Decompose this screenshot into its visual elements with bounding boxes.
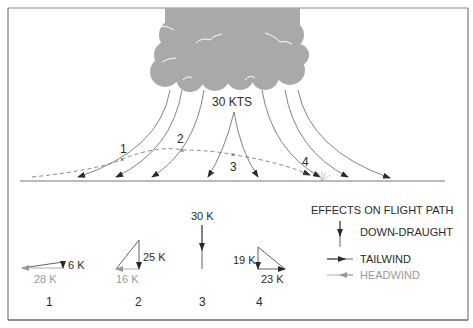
- vector-4-vertical-label: 19 K: [233, 254, 256, 266]
- vector-4-position-label: 4: [256, 296, 263, 308]
- svg-text:×: ×: [120, 156, 124, 163]
- vector-diagram-2: [116, 240, 139, 269]
- vector-1-position-label: 1: [46, 296, 53, 308]
- vector-4-horizontal-label: 23 K: [261, 273, 284, 285]
- vector-1-horizontal-label: 28 K: [34, 273, 57, 285]
- vector-diagram-1: [22, 262, 63, 268]
- vector-3-position-label: 3: [199, 296, 206, 308]
- vector-3-vertical-label: 30 K: [191, 210, 214, 222]
- svg-text:×: ×: [231, 151, 235, 158]
- legend-icons: [327, 221, 353, 275]
- svg-text:×: ×: [180, 147, 184, 154]
- legend-title: EFFECTS ON FLIGHT PATH: [311, 204, 453, 216]
- vector-2-vertical-label: 25 K: [143, 251, 166, 263]
- vector-diagram-4: [258, 247, 285, 269]
- vector-2-horizontal-label: 16 K: [116, 273, 139, 285]
- legend-item-tailwind: TAILWIND: [360, 253, 411, 265]
- legend-item-down-draught: DOWN-DRAUGHT: [360, 226, 453, 238]
- cloud-wind-speed-label: 30 KTS: [212, 96, 252, 108]
- ground-impact-mark: [318, 171, 330, 181]
- svg-text:×: ×: [303, 170, 307, 177]
- vector-1-vertical-label: 6 K: [68, 259, 85, 271]
- path-point-3-label: 3: [230, 161, 237, 173]
- path-point-2-label: 2: [177, 133, 184, 145]
- path-point-4-label: 4: [302, 156, 309, 168]
- storm-cloud: [150, 8, 309, 92]
- vector-2-position-label: 2: [135, 296, 142, 308]
- legend-item-headwind: HEADWIND: [360, 269, 420, 281]
- path-point-1-label: 1: [120, 143, 127, 155]
